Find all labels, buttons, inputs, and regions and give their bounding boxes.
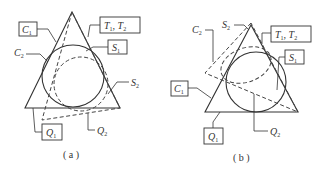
- label-s2: S2: [131, 77, 139, 89]
- label-q2: Q2: [270, 126, 280, 138]
- leader-c1: [37, 29, 56, 42]
- dashed-circle: [54, 57, 108, 111]
- leader-q2: [88, 113, 95, 130]
- panel-b: C2 S2 T1, T2 S1 C1 Q1 Q2 ( b ): [171, 19, 311, 164]
- label-c2: C2: [192, 24, 202, 36]
- leader-s2: [108, 82, 129, 94]
- solid-circle: [42, 45, 104, 107]
- label-t1-t2: T1, T2: [275, 29, 297, 41]
- dashed-circle: [216, 40, 276, 90]
- caption-b: ( b ): [233, 152, 250, 164]
- label-c2: C2: [14, 47, 24, 59]
- leader-c1: [188, 88, 211, 98]
- leader-q1: [33, 108, 42, 132]
- leader-s2: [234, 25, 249, 30]
- leader-c2: [26, 54, 48, 62]
- label-t1-t2: T1, T2: [104, 20, 126, 32]
- label-q2: Q2: [97, 125, 107, 137]
- leader-q1: [213, 112, 220, 128]
- leader-c2: [205, 30, 213, 62]
- caption-a: ( a ): [63, 149, 79, 161]
- leader-t1-t2: [262, 33, 271, 44]
- panel-a: C1 C2 T1, T2 S1 S2 Q1 Q2 ( a ): [14, 12, 140, 161]
- diagram-canvas: C1 C2 T1, T2 S1 S2 Q1 Q2 ( a ): [0, 0, 326, 177]
- leader-t1-t2: [88, 25, 100, 37]
- label-s2: S2: [222, 19, 230, 31]
